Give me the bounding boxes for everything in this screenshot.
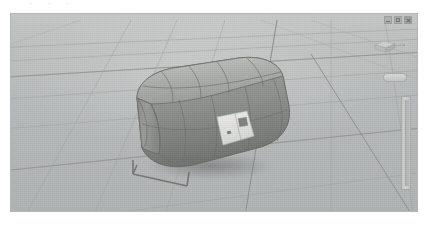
viewport-noise-overlay (11, 14, 417, 211)
screenshot-root: · · · (0, 0, 427, 233)
remnant-mark: · (66, 0, 68, 8)
top-text-remnants: · · · (0, 0, 427, 10)
perspective-viewport[interactable] (10, 13, 418, 212)
remnant-mark: · (30, 0, 32, 8)
remnant-mark: · (48, 0, 50, 8)
